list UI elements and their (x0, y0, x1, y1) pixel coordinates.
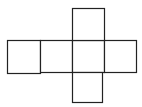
net-square-row-1 (8, 41, 41, 74)
cube-net-svg (0, 0, 142, 107)
net-square-row-3-center (73, 41, 105, 73)
net-square-row-4 (105, 41, 137, 73)
cube-net-diagram (0, 0, 142, 107)
net-square-row-2 (41, 41, 73, 73)
net-square-bottom (73, 73, 103, 103)
net-square-top (73, 9, 105, 41)
